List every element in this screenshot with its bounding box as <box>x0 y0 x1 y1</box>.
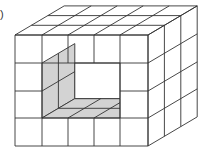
top-grid-line <box>68 6 117 35</box>
side-grid-line <box>148 34 197 63</box>
top-grid-line <box>120 6 169 35</box>
side-grid-line <box>148 62 197 91</box>
cube-diagram <box>0 0 202 154</box>
top-grid-line <box>42 6 91 35</box>
top-grid-line <box>15 6 64 35</box>
side-grid-line <box>148 117 197 146</box>
hole-back-wall <box>75 63 120 99</box>
top-grid-line <box>94 6 143 35</box>
side-grid-line <box>148 89 197 118</box>
side-grid-line <box>148 6 197 35</box>
